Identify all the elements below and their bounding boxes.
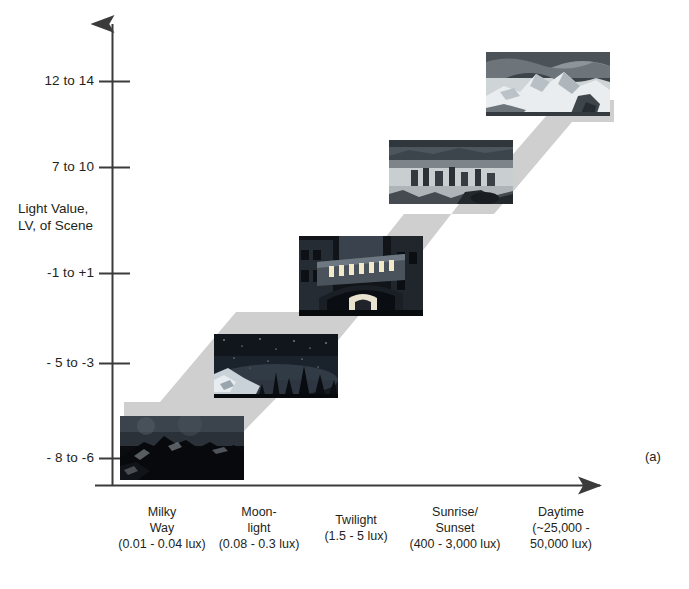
- ytick-label-4: - 8 to -6: [10, 450, 94, 465]
- xtick-line: light: [205, 520, 313, 536]
- xtick-line: Sunrise/: [392, 504, 518, 520]
- ytick-label-0: 12 to 14: [10, 73, 94, 88]
- xtick-label-milky-way: Milky Way (0.01 - 0.04 lux): [108, 504, 216, 552]
- xtick-line: Daytime: [505, 504, 617, 520]
- photo-milky-way-art: [120, 412, 244, 480]
- xtick-label-moonlight: Moon- light (0.08 - 0.3 lux): [205, 504, 313, 552]
- xtick-line: (0.01 - 0.04 lux): [108, 536, 216, 552]
- photo-twilight-art: [299, 236, 423, 316]
- figure-canvas: 12 to 14 7 to 10 -1 to +1 - 5 to -3 - 8 …: [0, 0, 689, 589]
- panel-label: (a): [645, 449, 661, 464]
- xtick-line: (~25,000 -: [505, 520, 617, 536]
- ytick-label-3: - 5 to -3: [10, 355, 94, 370]
- y-axis-title-line-1: Light Value,: [18, 200, 93, 217]
- ytick-label-1: 7 to 10: [10, 159, 94, 174]
- xtick-line: (0.08 - 0.3 lux): [205, 536, 313, 552]
- xtick-line: Moon-: [205, 504, 313, 520]
- xtick-label-sunrise-sunset: Sunrise/ Sunset (400 - 3,000 lux): [392, 504, 518, 552]
- y-axis-title-line-2: LV, of Scene: [18, 217, 93, 234]
- ytick-label-2: -1 to +1: [10, 265, 94, 280]
- xtick-line: 50,000 lux): [505, 536, 617, 552]
- xtick-label-daytime: Daytime (~25,000 - 50,000 lux): [505, 504, 617, 552]
- xtick-line: Milky: [108, 504, 216, 520]
- xtick-line: Sunset: [392, 520, 518, 536]
- y-tick-marks: [99, 82, 130, 459]
- photo-sunrise-art: [389, 140, 513, 204]
- xtick-line: Way: [108, 520, 216, 536]
- photo-moonlight-art: [214, 334, 338, 398]
- axes-and-band: [0, 0, 689, 589]
- photo-daytime-art: [486, 52, 610, 116]
- xtick-line: (400 - 3,000 lux): [392, 536, 518, 552]
- y-axis-title: Light Value, LV, of Scene: [18, 200, 93, 234]
